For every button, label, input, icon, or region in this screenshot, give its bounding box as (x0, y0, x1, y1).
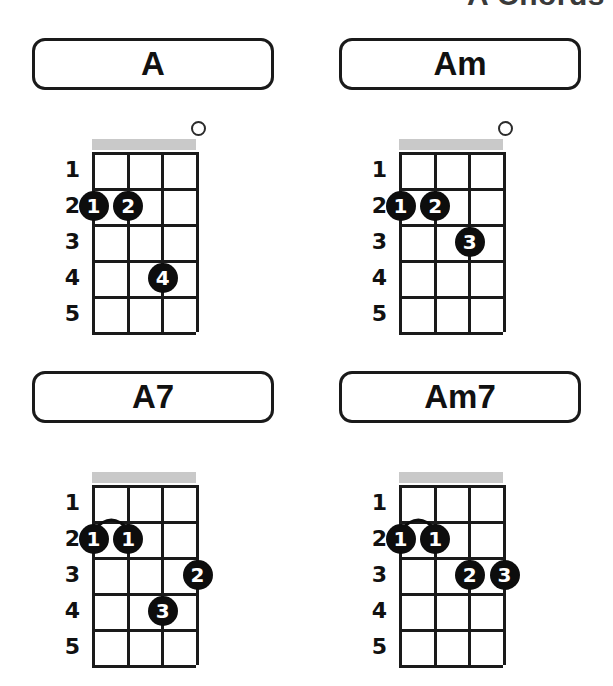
fret-number: 3 (365, 564, 387, 586)
string-line (196, 152, 199, 332)
nut-bar (399, 472, 503, 483)
fret-line (399, 296, 503, 299)
chord-sheet: A12345124Am12345123A7123451123Am71234511… (0, 0, 613, 686)
string-line (161, 485, 164, 665)
fret-line (92, 665, 196, 668)
fret-line (399, 485, 503, 488)
chord-name-box[interactable]: A (32, 38, 274, 90)
fret-number: 3 (58, 231, 80, 253)
chord-grid: 1123 (399, 485, 503, 665)
fret-line (399, 188, 503, 191)
string-line (161, 152, 164, 332)
chord-card: Am12345123 (327, 38, 595, 368)
fret-line (92, 224, 196, 227)
fret-line (92, 629, 196, 632)
fret-line (92, 332, 196, 335)
nut-bar (92, 472, 196, 483)
fret-number: 5 (365, 303, 387, 325)
chord-grid: 1123 (92, 485, 196, 665)
finger-dot[interactable]: 1 (79, 524, 109, 554)
fretboard: 12345123 (327, 122, 595, 368)
fretboard: 12345124 (20, 122, 288, 368)
chord-name-label: A (141, 47, 165, 80)
fret-number: 1 (365, 492, 387, 514)
finger-dot[interactable]: 2 (183, 560, 213, 590)
chord-card: A12345124 (20, 38, 288, 368)
finger-dot[interactable]: 3 (148, 596, 178, 626)
fretboard: 123451123 (327, 455, 595, 686)
fret-number: 4 (365, 267, 387, 289)
fret-number: 4 (365, 600, 387, 622)
fret-number: 2 (58, 195, 80, 217)
finger-dot[interactable]: 1 (386, 191, 416, 221)
fret-line (399, 665, 503, 668)
finger-dot[interactable]: 3 (455, 227, 485, 257)
fret-number: 1 (58, 492, 80, 514)
string-line (127, 152, 130, 332)
fret-number: 1 (58, 159, 80, 181)
fret-number: 2 (365, 195, 387, 217)
fret-number-column: 12345 (58, 152, 80, 332)
fret-number: 2 (58, 528, 80, 550)
open-string-icon (498, 121, 513, 136)
fret-number-column: 12345 (365, 152, 387, 332)
fret-number: 4 (58, 267, 80, 289)
fret-line (399, 593, 503, 596)
fret-number: 5 (58, 303, 80, 325)
finger-dot[interactable]: 1 (420, 524, 450, 554)
finger-dot[interactable]: 2 (420, 191, 450, 221)
chord-name-box[interactable]: A7 (32, 371, 274, 423)
fret-line (92, 260, 196, 263)
fret-number: 5 (365, 636, 387, 658)
fret-line (399, 332, 503, 335)
fret-number: 5 (58, 636, 80, 658)
chord-grid: 123 (399, 152, 503, 332)
finger-dot[interactable]: 2 (113, 191, 143, 221)
fret-line (399, 260, 503, 263)
nut-bar (92, 139, 196, 150)
fret-number: 3 (58, 564, 80, 586)
fretboard: 123451123 (20, 455, 288, 686)
fret-number: 2 (365, 528, 387, 550)
fret-line (92, 188, 196, 191)
chord-name-label: A7 (132, 380, 174, 413)
chord-name-box[interactable]: Am7 (339, 371, 581, 423)
fret-line (399, 629, 503, 632)
fret-number: 3 (365, 231, 387, 253)
chord-card: Am7123451123 (327, 371, 595, 686)
finger-dot[interactable]: 4 (148, 263, 178, 293)
fret-line (92, 485, 196, 488)
fret-number-column: 12345 (365, 485, 387, 665)
fret-line (92, 593, 196, 596)
chord-name-box[interactable]: Am (339, 38, 581, 90)
open-string-icon (191, 121, 206, 136)
finger-dot[interactable]: 1 (386, 524, 416, 554)
chord-card: A7123451123 (20, 371, 288, 686)
string-line (92, 152, 95, 332)
finger-dot[interactable]: 3 (490, 560, 520, 590)
fret-line (92, 557, 196, 560)
nut-bar (399, 139, 503, 150)
fret-line (399, 557, 503, 560)
fret-line (92, 296, 196, 299)
fret-line (399, 224, 503, 227)
chord-name-label: Am (433, 47, 486, 80)
chord-name-label: Am7 (424, 380, 496, 413)
fret-number: 4 (58, 600, 80, 622)
string-line (434, 152, 437, 332)
string-line (399, 152, 402, 332)
finger-dot[interactable]: 2 (455, 560, 485, 590)
fret-number: 1 (365, 159, 387, 181)
string-line (503, 152, 506, 332)
finger-dot[interactable]: 1 (79, 191, 109, 221)
chord-grid: 124 (92, 152, 196, 332)
fret-number-column: 12345 (58, 485, 80, 665)
fret-line (399, 152, 503, 155)
finger-dot[interactable]: 1 (113, 524, 143, 554)
fret-line (92, 152, 196, 155)
